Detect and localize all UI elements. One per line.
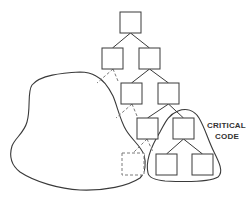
node-box-l3-left bbox=[121, 83, 142, 104]
critical-label-line2: CODE bbox=[215, 133, 239, 141]
dashed-dependency-links bbox=[97, 69, 153, 153]
dashed-node-box bbox=[122, 153, 144, 175]
dashed-link bbox=[113, 69, 118, 81]
critical-label-line1: CRITICAL bbox=[207, 122, 246, 130]
tree-edge bbox=[131, 33, 150, 48]
node-box-l4-right bbox=[173, 118, 194, 139]
tree-edge bbox=[148, 104, 169, 118]
node-box-l2-right bbox=[139, 48, 160, 69]
dashed-link bbox=[132, 104, 137, 116]
dashed-link bbox=[147, 139, 153, 152]
node-box-l5-left bbox=[156, 154, 177, 175]
tree-edge bbox=[132, 69, 150, 83]
dashed-link bbox=[97, 69, 113, 83]
node-box-l3-right bbox=[158, 83, 179, 104]
tree-edge bbox=[113, 33, 131, 48]
tree-edge bbox=[167, 139, 184, 154]
tree-edge bbox=[150, 69, 169, 83]
node-box-l5-right bbox=[192, 154, 213, 175]
tree-nodes bbox=[102, 12, 213, 175]
critical-code-diagram bbox=[0, 0, 252, 198]
node-box-l2-left bbox=[102, 48, 123, 69]
node-box-l4-left bbox=[137, 118, 158, 139]
tree-edge bbox=[184, 139, 203, 154]
node-box-root bbox=[120, 12, 141, 33]
